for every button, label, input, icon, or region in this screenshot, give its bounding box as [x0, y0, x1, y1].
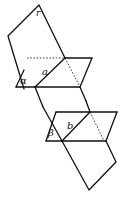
- label-alpha: α: [20, 75, 27, 86]
- plane-r-lower-edge-left: [35, 87, 43, 107]
- plane-r-lower-edge-right: [80, 87, 86, 101]
- line-a: [35, 58, 65, 87]
- planes-diagram: r a α b β: [0, 0, 123, 204]
- plane-alpha-hidden-diagonal: [65, 58, 80, 87]
- plane-r-lower-right-edge: [86, 101, 90, 112]
- plane-beta: [46, 112, 117, 141]
- plane-alpha: [16, 58, 92, 87]
- plane-beta-right-edge: [106, 112, 117, 141]
- plane-alpha-right-edge: [80, 58, 92, 87]
- label-r: r: [36, 8, 41, 18]
- label-beta: β: [47, 127, 54, 138]
- plane-beta-hidden-diagonal: [90, 112, 104, 141]
- plane-r-bottom-edges: [62, 141, 116, 190]
- label-b: b: [67, 120, 73, 131]
- label-a: a: [42, 66, 48, 77]
- plane-r-lower: [43, 101, 116, 190]
- diagram-canvas: r a α b β: [0, 0, 123, 204]
- plane-r: [8, 5, 86, 107]
